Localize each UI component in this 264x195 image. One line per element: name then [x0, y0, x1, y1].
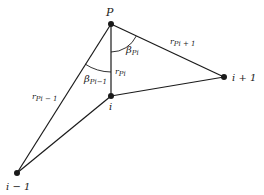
vertex-i-minus-1-label: i − 1 [6, 181, 30, 192]
angle-label-beta-Pi-minus-1: βPi−1 [83, 73, 107, 86]
edge-i-i-plus-1 [111, 77, 224, 96]
vertex-i-plus-1-label: i + 1 [232, 72, 256, 83]
vertex-P-label: P [105, 6, 114, 19]
vertex-i-label: i [109, 101, 112, 112]
vertex-i-plus-1-dot [221, 74, 227, 80]
angle-label-beta-Pi: βPi [125, 44, 139, 57]
diagram-canvas: P i i − 1 i + 1 rPi rPi + 1 rPi − 1 βPi … [0, 0, 264, 195]
vertex-i-dot [108, 93, 114, 99]
angle-arc-beta-Pi-minus-1 [85, 64, 111, 72]
vertex-i-minus-1-dot [14, 170, 20, 176]
vertex-P-dot [108, 21, 114, 27]
polygon-vertex-diagram: P i i − 1 i + 1 rPi rPi + 1 rPi − 1 βPi … [0, 0, 264, 195]
edge-label-r-Pi-minus-1: rPi − 1 [32, 92, 58, 103]
edge-label-r-Pi-plus-1: rPi + 1 [170, 37, 196, 48]
edge-label-r-Pi: rPi [115, 67, 126, 78]
edge-i-i-minus-1 [17, 96, 111, 173]
